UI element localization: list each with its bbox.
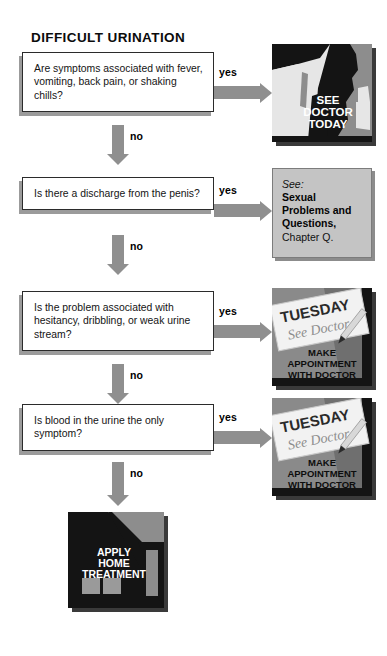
calendar-note-icon: TUESDAY See Doctor MAKE APPOINTMENT WITH…	[272, 398, 372, 496]
page-title: DIFFICULT URINATION	[31, 30, 185, 45]
no-label-4: no	[130, 467, 143, 479]
yes-arrow-3	[214, 325, 274, 338]
no-arrow-2	[112, 235, 124, 277]
reference-chapter: Chapter Q.	[282, 231, 363, 244]
house-icon: APPLY HOME TREATMENT	[68, 512, 164, 608]
svg-text:WITH DOCTOR: WITH DOCTOR	[288, 479, 356, 490]
svg-text:MAKE: MAKE	[308, 347, 336, 358]
svg-text:MAKE: MAKE	[308, 457, 336, 468]
question-text-4: Is blood in the urine the only symptom?	[23, 405, 213, 450]
yes-arrow-2	[214, 204, 274, 217]
reference-title: Sexual Problems and Questions,	[282, 191, 363, 231]
outcome-panel-reference: See: Sexual Problems and Questions, Chap…	[272, 168, 372, 258]
reference-lead: See:	[282, 178, 363, 191]
no-arrow-1	[112, 125, 124, 167]
outcome-panel-see-doctor-today: SEE DOCTOR TODAY	[272, 44, 372, 142]
question-text-1: Are symptoms associated with fever, vomi…	[23, 53, 213, 111]
question-text-3: Is the problem associated with hesitancy…	[23, 292, 213, 350]
no-label-2: no	[130, 240, 143, 252]
outcome-panel-make-appointment-2: TUESDAY See Doctor MAKE APPOINTMENT WITH…	[272, 398, 372, 496]
yes-arrow-1	[214, 86, 274, 99]
outcome-panel-make-appointment-1: TUESDAY See Doctor MAKE APPOINTMENT WITH…	[272, 288, 372, 386]
no-arrow-4	[112, 462, 124, 508]
svg-text:APPOINTMENT: APPOINTMENT	[287, 468, 356, 479]
svg-text:APPOINTMENT: APPOINTMENT	[287, 358, 356, 369]
doctor-silhouette-icon: SEE DOCTOR TODAY	[272, 44, 372, 142]
flowchart-diagram: DIFFICULT URINATION Are symptoms associa…	[0, 0, 387, 656]
yes-label-3: yes	[219, 305, 237, 317]
no-label-1: no	[130, 130, 143, 142]
question-box-4[interactable]: Is blood in the urine the only symptom?	[22, 404, 214, 451]
calendar-note-icon: TUESDAY See Doctor MAKE APPOINTMENT WITH…	[272, 288, 372, 386]
no-arrow-3	[112, 364, 124, 406]
svg-text:DOCTOR: DOCTOR	[303, 106, 353, 118]
svg-text:TREATMENT: TREATMENT	[82, 568, 147, 580]
svg-text:TODAY: TODAY	[309, 118, 348, 130]
yes-label-1: yes	[219, 66, 237, 78]
yes-arrow-4	[214, 431, 274, 444]
svg-text:WITH DOCTOR: WITH DOCTOR	[288, 369, 356, 380]
no-label-3: no	[130, 369, 143, 381]
yes-label-2: yes	[219, 184, 237, 196]
outcome-panel-apply-home-treatment: APPLY HOME TREATMENT	[68, 512, 164, 608]
question-text-2: Is there a discharge from the penis?	[23, 178, 213, 209]
svg-text:SEE: SEE	[316, 94, 339, 106]
question-box-3[interactable]: Is the problem associated with hesitancy…	[22, 291, 214, 351]
question-box-2[interactable]: Is there a discharge from the penis?	[22, 177, 214, 210]
yes-label-4: yes	[219, 411, 237, 423]
question-box-1[interactable]: Are symptoms associated with fever, vomi…	[22, 52, 214, 112]
